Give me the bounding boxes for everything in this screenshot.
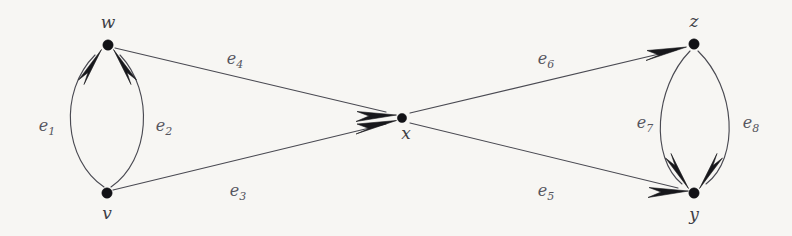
edge-label-e7: e7 <box>637 113 653 135</box>
edge-label-e4: e4 <box>227 49 243 71</box>
edge-label-e3-sub: 3 <box>239 190 246 203</box>
graph-figure: w v x z y e1 e2 e3 e4 e5 e6 <box>0 0 792 236</box>
edge-label-e6-base: e <box>538 49 547 68</box>
edge-e4-arrowhead <box>356 112 397 122</box>
vertex-label-x: x <box>401 123 411 143</box>
edge-label-e2-sub: 2 <box>164 125 172 138</box>
vertex-label-z: z <box>689 11 700 31</box>
edge-e6 <box>410 47 687 113</box>
vertex-y-dot <box>689 188 699 198</box>
vertex-layer <box>102 39 699 198</box>
edge-label-e1-sub: 1 <box>48 125 55 138</box>
vertex-label-v: v <box>102 203 112 223</box>
edge-e1-arrowhead <box>79 50 102 85</box>
edge-e8 <box>698 51 729 189</box>
vertex-label-y: y <box>688 204 699 224</box>
edge-e7-arrowhead <box>666 154 689 189</box>
edge-label-e8: e8 <box>743 113 759 135</box>
edge-e3-path <box>113 124 386 190</box>
edge-label-e2-base: e <box>156 116 165 135</box>
edge-label-e8-base: e <box>743 113 752 132</box>
edge-e3-arrowhead <box>356 121 397 135</box>
edge-e7 <box>660 51 690 189</box>
edge-label-e3-base: e <box>230 181 239 200</box>
vertex-v-dot <box>102 188 112 198</box>
edge-label-e6: e6 <box>538 49 554 71</box>
vertex-x-dot <box>397 113 406 122</box>
edge-label-e5: e5 <box>538 181 554 203</box>
edge-e1 <box>70 50 104 188</box>
edge-label-e7-sub: 7 <box>646 122 653 135</box>
edge-label-e2: e2 <box>156 116 172 138</box>
vertex-w-dot <box>103 40 113 50</box>
edge-label-e7-base: e <box>637 113 646 132</box>
edge-label-e8-sub: 8 <box>752 122 759 135</box>
edge-label-e1: e1 <box>39 116 55 138</box>
graph-canvas: w v x z y e1 e2 e3 e4 e5 e6 <box>0 0 792 236</box>
edge-e5-path <box>410 123 678 188</box>
edge-e4-path <box>115 48 386 112</box>
edge-label-e4-sub: 4 <box>235 58 243 71</box>
edge-label-e5-base: e <box>538 181 547 200</box>
edge-e5-arrowhead <box>648 188 689 198</box>
vertex-z-dot <box>689 39 699 49</box>
edge-e8-arrowhead <box>700 154 723 189</box>
vertex-label-w: w <box>101 12 116 32</box>
edge-label-e1-base: e <box>39 116 48 135</box>
edge-e2-arrowhead <box>114 50 137 85</box>
edge-label-e5-sub: 5 <box>547 190 554 203</box>
edge-label-e6-sub: 6 <box>547 58 554 71</box>
edge-e4 <box>115 48 397 122</box>
edge-label-e3: e3 <box>230 181 246 203</box>
edge-label-e4-base: e <box>227 49 236 68</box>
edge-label-layer: e1 e2 e3 e4 e5 e6 e7 e8 <box>39 49 759 203</box>
edge-e6-arrowhead <box>646 47 687 61</box>
edge-e2 <box>111 50 143 188</box>
